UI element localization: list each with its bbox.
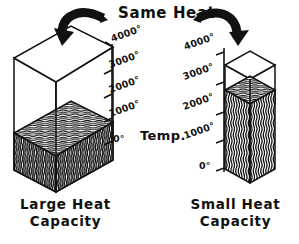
figure-title: Same Heat bbox=[118, 4, 215, 22]
left-tick-label-0: 0° bbox=[113, 133, 125, 144]
right-temperature-axis bbox=[216, 48, 224, 172]
large-box bbox=[14, 26, 113, 192]
right-tick-label-0: 0° bbox=[199, 160, 211, 171]
large-caption-line-2: Capacity bbox=[8, 213, 123, 230]
small-box bbox=[225, 51, 275, 183]
small-box-liquid-right-face bbox=[250, 90, 275, 183]
small-caption-line-2: Capacity bbox=[178, 213, 293, 230]
small-caption-line-1: Small Heat bbox=[178, 196, 293, 213]
small-heat-capacity-caption: Small Heat Capacity bbox=[178, 196, 293, 230]
large-heat-capacity-caption: Large Heat Capacity bbox=[8, 196, 123, 230]
large-caption-line-1: Large Heat bbox=[8, 196, 123, 213]
heat-capacity-figure: Same Heat 4000° 3000° 2000° 1000° 0° Tem… bbox=[0, 0, 299, 244]
temp-axis-label: Temp. bbox=[140, 128, 186, 143]
small-box-liquid-left-face bbox=[225, 90, 250, 183]
